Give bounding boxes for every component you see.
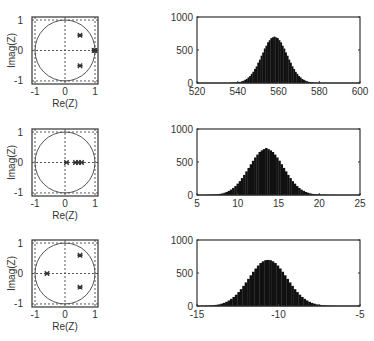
x-axis-label: Re(Z)	[52, 321, 78, 332]
histogram-bar	[225, 302, 228, 306]
histogram-bar	[296, 186, 299, 195]
histogram-bar	[289, 178, 292, 195]
histogram-bar	[250, 164, 253, 195]
histogram-bar	[281, 272, 284, 306]
histogram-bar	[306, 301, 309, 306]
x-tick-label: -1	[31, 198, 40, 209]
histogram-bar	[284, 275, 287, 306]
histogram-bar	[235, 295, 238, 306]
histogram-bar	[276, 158, 279, 195]
x-tick-label: -1	[31, 309, 40, 320]
histogram-bar	[294, 289, 297, 306]
histogram-bar	[303, 191, 306, 195]
x-tick-label: 0	[62, 86, 68, 97]
histogram-bar	[298, 295, 301, 306]
y-tick-label: 1	[17, 127, 23, 138]
y-tick-label: 500	[176, 45, 193, 56]
histogram-bar	[296, 292, 299, 306]
histogram-bar	[300, 190, 303, 195]
histogram-bar	[272, 152, 275, 195]
x-tick-label: 0	[62, 309, 68, 320]
y-tick-label: 1000	[171, 235, 194, 246]
y-tick-label: 0	[187, 78, 193, 89]
x-axis-label: Re(Z)	[52, 210, 78, 221]
histogram-bar	[245, 171, 248, 195]
x-axis-label: Re(Z)	[52, 98, 78, 109]
y-axis-label: Imag(Z)	[6, 145, 17, 180]
x-tick-label: 5	[194, 198, 200, 209]
y-tick-label: 0	[187, 301, 193, 312]
histogram-bar	[279, 269, 282, 306]
histogram-bar	[289, 282, 292, 306]
y-tick-label: 1000	[171, 12, 194, 23]
histogram-bar	[267, 149, 270, 195]
histogram-bar	[240, 289, 243, 306]
histogram-bar	[239, 181, 242, 195]
histogram-bar	[265, 148, 268, 195]
y-tick-label: 1000	[171, 124, 194, 135]
y-tick-label: 0	[17, 268, 23, 279]
figure: -11001-1Re(Z)Imag(Z)52054056058060010005…	[0, 0, 374, 341]
x-tick-label: 15	[273, 198, 285, 209]
histogram-bar	[247, 279, 250, 306]
histogram-bar	[228, 301, 231, 306]
y-tick-label: -1	[14, 187, 23, 198]
x-tick-label: 0	[62, 198, 68, 209]
histogram-bar	[272, 261, 275, 306]
x-tick-label: 580	[311, 86, 328, 97]
histogram-bar	[261, 150, 264, 195]
x-tick-label: 540	[229, 86, 246, 97]
histogram-bar	[278, 161, 281, 195]
y-tick-label: 0	[17, 157, 23, 168]
histogram-bar	[259, 263, 262, 306]
pole-zero-plot-1: -11001-1Re(Z)Imag(Z)	[6, 15, 98, 109]
x-tick-label: 1	[92, 198, 98, 209]
y-tick-label: 1	[17, 15, 23, 26]
histogram-bar	[257, 266, 260, 306]
histogram-bar	[280, 164, 283, 195]
histogram-bar	[287, 175, 290, 195]
histogram-bar	[232, 188, 235, 195]
y-tick-label: -1	[14, 298, 23, 309]
histogram-bar	[262, 261, 265, 306]
histogram-1: 52054056058060010005000	[171, 12, 369, 98]
histogram-bar	[283, 168, 286, 195]
y-tick-label: -1	[14, 75, 23, 86]
histogram-bar	[263, 149, 266, 195]
x-tick-label: 560	[270, 86, 287, 97]
histogram-bar	[242, 286, 245, 306]
histogram-bar	[276, 266, 279, 306]
y-axis-label: Imag(Z)	[6, 256, 17, 291]
histogram-bar	[247, 168, 250, 195]
y-tick-label: 0	[187, 190, 193, 201]
y-axis-label: Imag(Z)	[6, 33, 17, 68]
figure-canvas: -11001-1Re(Z)Imag(Z)52054056058060010005…	[0, 0, 374, 341]
histogram-bar	[264, 260, 267, 306]
histogram-bar	[228, 191, 231, 195]
histogram-bar	[232, 297, 235, 306]
histogram-bar	[234, 186, 237, 195]
x-tick-label: 10	[232, 198, 244, 209]
histogram-bar	[298, 188, 301, 195]
x-tick-label: 20	[314, 198, 326, 209]
y-tick-label: 1	[17, 238, 23, 249]
x-tick-label: 1	[92, 86, 98, 97]
x-tick-label: -10	[271, 309, 286, 320]
y-tick-label: 500	[176, 268, 193, 279]
histogram-bar	[237, 292, 240, 306]
pole-zero-plot-3: -11001-1Re(Z)Imag(Z)	[6, 238, 98, 332]
histogram-bar	[286, 279, 289, 306]
histogram-bar	[267, 260, 270, 306]
x-tick-label: 600	[352, 86, 369, 97]
histogram-bar	[303, 299, 306, 306]
x-tick-label: -5	[356, 309, 365, 320]
histogram-bar	[252, 272, 255, 306]
histogram-bar	[258, 152, 261, 195]
histogram-bar	[245, 282, 248, 306]
x-tick-label: 1	[92, 309, 98, 320]
x-tick-label: 25	[354, 198, 366, 209]
histogram-bar	[294, 184, 297, 195]
histogram-bar	[254, 157, 257, 195]
histogram-bar	[256, 155, 259, 195]
pole-zero-plot-2: -11001-1Re(Z)Imag(Z)	[6, 127, 98, 221]
